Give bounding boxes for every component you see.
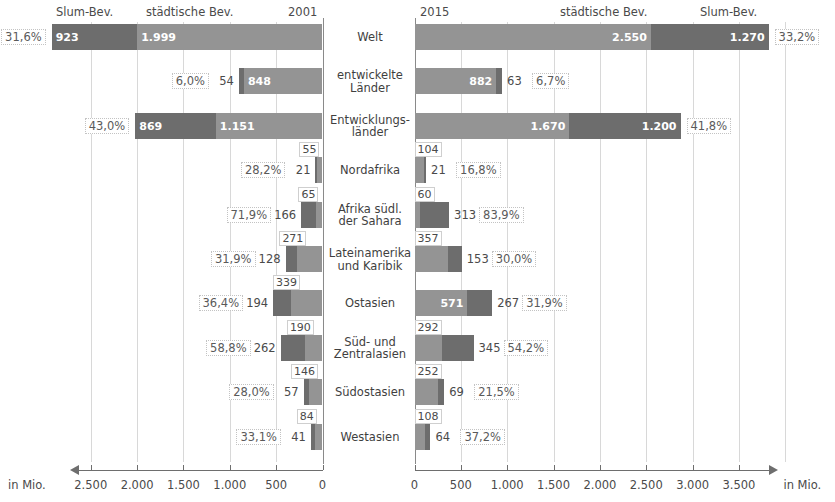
axis-tick-right-500	[461, 465, 462, 470]
bar-value-urban-2001: 1.151	[220, 119, 255, 132]
bar-urban-2015: 2.550	[415, 24, 651, 50]
bar-value-slum-2015: 63	[507, 74, 522, 88]
category-label-line1: Afrika südl.	[325, 202, 415, 215]
category-label: Südostasien	[325, 386, 415, 399]
axis-tick-label-left-1500: 1.500	[158, 478, 208, 492]
bar-urban-2001	[317, 157, 322, 183]
category-label: Ostasien	[325, 297, 415, 310]
bar-value-urban-2001: 1.999	[141, 31, 176, 44]
table-row	[0, 424, 835, 450]
axis-arrow-left	[70, 465, 79, 475]
percent-2001: 31,6%	[1, 29, 46, 45]
axis-tick-label-left-1000: 1.000	[205, 478, 255, 492]
percent-2015: 37,2%	[460, 429, 505, 445]
bar-value-urban-2001: 84	[297, 409, 317, 424]
bar-value-urban-2015: 60	[415, 187, 435, 202]
bar-value-slum-2001: 21	[296, 163, 311, 177]
axis-tick-right-1500	[554, 465, 555, 470]
axis-tick-left-2500	[91, 465, 92, 470]
bar-urban-2001	[309, 379, 323, 405]
percent-2015: 16,8%	[456, 162, 501, 178]
percent-2015: 33,2%	[775, 29, 820, 45]
bar-urban-2015: 571	[415, 290, 468, 316]
category-label-line1: Entwicklungs-	[325, 113, 415, 126]
bar-slum-2015: 1.270	[651, 24, 769, 50]
table-row	[0, 246, 835, 272]
bar-value-urban-2001: 271	[279, 231, 306, 246]
percent-2001: 31,9%	[211, 251, 256, 267]
bar-urban-2015	[415, 424, 425, 450]
category-label-line1: Süd- und	[325, 335, 415, 348]
category-label: Lateinamerikaund Karibik	[325, 247, 415, 272]
bar-urban-2015	[415, 379, 438, 405]
bar-slum-2001	[286, 246, 298, 272]
bar-value-urban-2015: 882	[469, 75, 492, 88]
axis-tick-right-3000	[693, 465, 694, 470]
bar-value-urban-2015: 1.670	[531, 119, 566, 132]
bar-value-slum-2001: 41	[291, 430, 306, 444]
bar-value-urban-2001: 65	[298, 187, 318, 202]
slum-population-chart: Slum-Bev.städtische Bev.20012015städtisc…	[0, 0, 835, 502]
bar-urban-2015: 1.670	[415, 113, 570, 139]
percent-2001: 28,2%	[241, 162, 286, 178]
bar-urban-2015	[415, 335, 442, 361]
axis-tick-left-500	[276, 465, 277, 470]
category-label-line2: und Karibik	[325, 259, 415, 272]
percent-2001: 58,8%	[206, 340, 251, 356]
category-label: Entwicklungs-länder	[325, 113, 415, 138]
header-left-urban-label: städtische Bev.	[146, 5, 233, 19]
bar-slum-2015	[496, 68, 502, 94]
bar-slum-2001	[239, 68, 244, 94]
bar-value-urban-2015: 292	[415, 320, 442, 335]
bar-value-urban-2001: 146	[291, 364, 318, 379]
bar-value-urban-2015: 2.550	[612, 31, 647, 44]
axis-tick-right-2000	[600, 465, 601, 470]
bar-slum-2015	[467, 290, 492, 316]
table-row	[0, 379, 835, 405]
axis-tick-label-right-3500: 3.500	[714, 478, 764, 492]
percent-2001: 28,0%	[229, 384, 274, 400]
category-label: Nordafrika	[325, 164, 415, 177]
bar-value-slum-2001: 194	[246, 296, 268, 310]
axis-left	[79, 470, 323, 471]
axis-tick-label-left-2500: 2.500	[66, 478, 116, 492]
category-label-line1: entwickelte	[325, 69, 415, 82]
axis-tick-left-1000	[230, 465, 231, 470]
bar-value-urban-2001: 848	[248, 75, 271, 88]
bar-urban-2001: 1.151	[216, 113, 323, 139]
bar-urban-2001	[315, 424, 323, 450]
bar-slum-2001: 869	[135, 113, 216, 139]
header-right-urban-label: städtische Bev.	[560, 5, 647, 19]
axis-tick-label-left-0: 0	[298, 478, 348, 492]
category-label: Welt	[325, 31, 415, 44]
bar-value-slum-2001: 54	[219, 74, 234, 88]
axis-tick-label-left-500: 500	[251, 478, 301, 492]
category-label-line2: Zentralasien	[325, 348, 415, 361]
percent-2001: 43,0%	[85, 118, 130, 134]
bar-value-urban-2015: 108	[415, 409, 442, 424]
bar-urban-2001	[305, 335, 323, 361]
header-right-slum-label: Slum-Bev.	[700, 5, 757, 19]
bar-value-slum-2001: 166	[274, 208, 296, 222]
bar-value-slum-2001: 923	[56, 31, 79, 44]
bar-value-slum-2015: 267	[497, 296, 519, 310]
bar-urban-2015	[415, 157, 425, 183]
bar-slum-2015	[420, 202, 449, 228]
header-right-year: 2015	[420, 5, 449, 19]
percent-2015: 54,2%	[504, 340, 549, 356]
percent-2015: 41,8%	[687, 118, 732, 134]
table-row	[0, 202, 835, 228]
bar-value-slum-2015: 64	[435, 430, 450, 444]
bar-slum-2015	[442, 335, 474, 361]
bar-value-slum-2001: 262	[254, 341, 276, 355]
axis-tick-right-1000	[507, 465, 508, 470]
bar-value-slum-2015: 153	[467, 252, 489, 266]
axis-tick-label-left-2000: 2.000	[112, 478, 162, 492]
bar-slum-2001	[304, 379, 309, 405]
bar-value-urban-2015: 252	[415, 364, 442, 379]
bar-slum-2015: 1.200	[569, 113, 680, 139]
axis-tick-right-0	[415, 465, 416, 470]
category-label-line1: Lateinamerika	[325, 247, 415, 260]
bar-urban-2001	[291, 290, 322, 316]
axis-tick-label-right-500: 500	[436, 478, 486, 492]
